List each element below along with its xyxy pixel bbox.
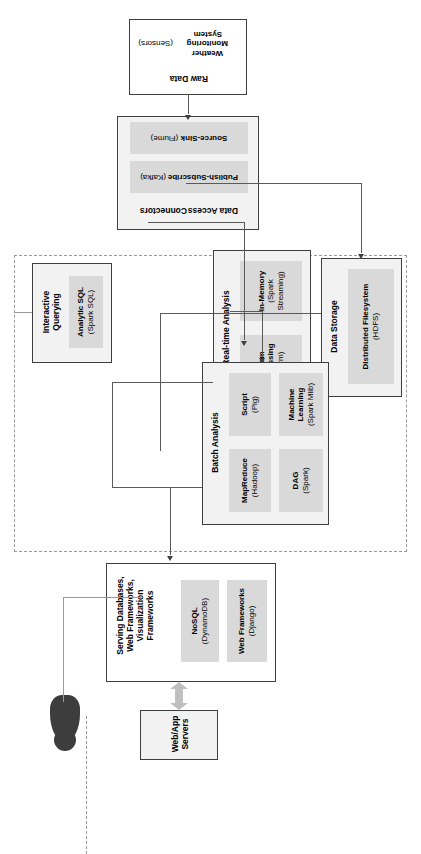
group-data-access-connectors-title: Data Access Connectors: [118, 198, 260, 224]
group-batch-analysis: Batch Analysis MapReduce (Hadoop) Script…: [202, 362, 329, 525]
group-web-app-servers-title-line1: Web/App: [170, 716, 180, 753]
component-publish-subscribe-detail: (Kafka): [140, 172, 166, 182]
component-web-frameworks[interactable]: Web Frameworks (Django): [227, 580, 267, 662]
component-nosql-name: NoSQL: [190, 607, 200, 634]
connector-kafka-to-stream-v: [148, 222, 244, 223]
user-actor-body-icon: [50, 695, 80, 741]
connector-trunk-to-realtime: [112, 382, 213, 383]
connector-trunk-to-batch: [112, 487, 202, 488]
connector-feedback-riser: [230, 311, 262, 312]
connector-raw-to-connectors-h: [188, 94, 189, 114]
component-in-memory-name: In-Memory: [257, 271, 267, 311]
group-interactive-querying-title-line2: Querying: [51, 293, 61, 330]
component-weather-monitoring-system-detail: (Sensors): [138, 39, 173, 49]
component-nosql[interactable]: NoSQL (DynamoDB): [181, 580, 219, 662]
component-web-frameworks-name: Web Frameworks: [237, 588, 247, 654]
group-interactive-querying-title-line1: Interactive: [41, 291, 51, 334]
group-serving-layer: Serving Databases, Web Frameworks, Visua…: [106, 563, 276, 682]
connector-feedback-to-batch-arrowhead: [259, 358, 265, 363]
component-publish-subscribe-name: Publish-Subscribe: [168, 172, 238, 182]
connector-flume-to-hdfs-arrowhead: [358, 254, 364, 259]
component-machine-learning-name: Machine Learning: [287, 373, 306, 436]
group-serving-layer-title-line4: Frameworks: [145, 590, 155, 640]
connector-raw-to-connectors-arrowhead: [185, 115, 191, 120]
component-script[interactable]: Script (Pig): [229, 373, 271, 436]
component-analytic-sql-name: Analytic SQL: [76, 287, 86, 337]
component-machine-learning-detail: (Spark Mlib): [306, 383, 316, 426]
component-analytic-sql-detail: (Spark SQL): [86, 290, 96, 334]
connector-kafka-to-stream-h: [244, 222, 245, 340]
group-web-app-servers-title-line2: Servers: [180, 718, 190, 749]
connector-interactive-querying-tie: [14, 312, 32, 313]
group-serving-layer-title: Serving Databases, Web Frameworks, Visua…: [115, 556, 171, 675]
component-distributed-filesystem[interactable]: Distributed Filesystem (HDFS): [348, 269, 394, 384]
connector-user-to-web-app: [63, 597, 64, 702]
component-analytic-sql[interactable]: Analytic SQL (Spark SQL): [69, 276, 103, 348]
component-source-sink[interactable]: Source-Sink (Flume): [130, 122, 248, 154]
component-weather-monitoring-system[interactable]: Weather Monitoring System (Sensors): [138, 24, 240, 64]
component-script-detail: (Pig): [250, 396, 260, 413]
component-dag-detail: (Spark): [301, 467, 311, 493]
connector-analytics-to-serving-h: [170, 487, 171, 555]
component-mapreduce-detail: (Hadoop): [250, 464, 260, 497]
component-mapreduce-name: MapReduce: [240, 458, 250, 503]
component-distributed-filesystem-detail: (HDFS): [371, 313, 381, 340]
component-nosql-detail: (DynamoDB): [200, 598, 210, 644]
component-mapreduce[interactable]: MapReduce (Hadoop): [229, 449, 271, 512]
connector-user-to-web-app-drop: [63, 597, 141, 598]
component-publish-subscribe[interactable]: Publish-Subscribe (Kafka): [130, 161, 248, 193]
connector-analytics-trunk: [112, 382, 113, 488]
connector-web-app-to-serving-head-right: [170, 682, 188, 689]
group-raw-data-title: Raw Data: [130, 70, 248, 88]
connector-flume-to-hdfs-h: [361, 183, 362, 253]
connector-web-app-to-serving: [170, 682, 188, 710]
component-weather-monitoring-system-name: Weather Monitoring System: [175, 30, 240, 59]
group-batch-analysis-title: Batch Analysis: [207, 361, 223, 524]
connector-feedback-to-batch: [262, 311, 263, 357]
component-source-sink-detail: (Flume): [151, 133, 179, 143]
connector-analytics-to-serving-arrowhead: [167, 556, 173, 561]
component-dag[interactable]: DAG (Spark): [279, 449, 323, 512]
group-data-access-connectors: Data Access Connectors Publish-Subscribe…: [117, 116, 259, 230]
component-web-frameworks-detail: (Django): [247, 606, 257, 637]
component-source-sink-name: Source-Sink: [180, 133, 227, 143]
connector-trunk-to-storage-v: [160, 313, 321, 314]
group-data-access-connectors-title-line1: Data Access: [188, 206, 238, 216]
group-raw-data: Raw Data Weather Monitoring System (Sens…: [129, 19, 247, 95]
group-interactive-querying-title: Interactive Querying: [39, 262, 63, 362]
user-actor-icon: [42, 695, 86, 751]
group-interactive-querying: Interactive Querying Analytic SQL (Spark…: [32, 263, 112, 363]
connector-flume-to-hdfs-v: [186, 183, 361, 184]
group-serving-layer-title-line2: Web Frameworks,: [125, 579, 135, 652]
group-web-app-servers-title: Web/App Servers: [141, 709, 219, 759]
component-machine-learning[interactable]: Machine Learning (Spark Mlib): [279, 373, 323, 436]
connector-kafka-to-stream-arrowhead: [241, 341, 247, 346]
component-dag-name: DAG: [291, 472, 301, 490]
group-data-storage: Data Storage Distributed Filesystem (HDF…: [321, 258, 402, 397]
connector-web-app-to-serving-shaft: [175, 688, 183, 704]
group-serving-layer-title-line1: Serving Databases,: [115, 576, 125, 654]
component-distributed-filesystem-name: Distributed Filesystem: [361, 284, 371, 370]
connector-web-app-to-serving-head-left: [170, 703, 188, 710]
connector-user-to-platform-dashed: [86, 716, 87, 854]
group-web-app-servers: Web/App Servers: [140, 710, 218, 760]
component-script-name: Script: [240, 393, 250, 416]
group-data-access-connectors-title-line2: Connectors: [140, 206, 187, 216]
connector-trunk-to-storage-h: [160, 313, 161, 451]
